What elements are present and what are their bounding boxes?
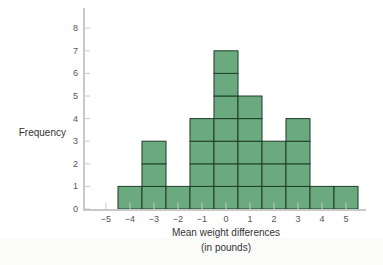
bar-unit-box [142, 164, 166, 187]
x-tick-label: −1 [197, 214, 207, 224]
y-tick-label: 3 [73, 136, 78, 146]
bar-unit-box [190, 141, 214, 164]
y-tick-label: 6 [73, 68, 78, 78]
bar [262, 141, 286, 209]
x-tick-label: −3 [149, 214, 159, 224]
bar-unit-box [262, 164, 286, 187]
x-tick-label: −5 [101, 214, 111, 224]
bar-unit-box [214, 164, 238, 187]
x-tick-label: 0 [223, 214, 228, 224]
histogram-chart: 012345678 −5−4−3−2−1012345 Frequency Mea… [0, 0, 383, 238]
y-axis-title: Frequency [19, 127, 66, 138]
x-tick-label: 1 [247, 214, 252, 224]
x-tick-label: 2 [271, 214, 276, 224]
x-axis-title-line1: Mean weight differences [172, 227, 280, 238]
bar-unit-box [238, 164, 262, 187]
bar-unit-box [238, 96, 262, 119]
bar-unit-box [190, 119, 214, 142]
bar [238, 96, 262, 209]
x-tick-label: −4 [125, 214, 135, 224]
bar-unit-box [238, 119, 262, 142]
bar-unit-box [214, 73, 238, 96]
bar [286, 119, 310, 209]
bar-unit-box [214, 141, 238, 164]
bar-unit-box [286, 164, 310, 187]
bar-unit-box [214, 119, 238, 142]
bar [142, 141, 166, 209]
bar-unit-box [286, 141, 310, 164]
bar-unit-box [238, 141, 262, 164]
y-tick-label: 8 [73, 23, 78, 33]
y-tick-label: 1 [73, 181, 78, 191]
y-tick-label: 0 [73, 204, 78, 214]
bar-unit-box [286, 119, 310, 142]
x-axis-title-line2: (in pounds) [201, 242, 251, 253]
bar [214, 51, 238, 209]
bar-unit-box [214, 96, 238, 119]
x-axis-title-area: (in pounds) [0, 238, 383, 265]
bar [190, 119, 214, 209]
x-tick-label: −2 [173, 214, 183, 224]
y-tick-label: 7 [73, 46, 78, 56]
bar-unit-box [214, 51, 238, 74]
bars-group [118, 51, 358, 209]
y-tick-label: 2 [73, 159, 78, 169]
bar-unit-box [190, 164, 214, 187]
x-tick-label: 4 [319, 214, 324, 224]
x-tick-label: 3 [295, 214, 300, 224]
x-tick-label: 5 [343, 214, 348, 224]
bar-unit-box [262, 141, 286, 164]
y-tick-label: 5 [73, 91, 78, 101]
y-tick-label: 4 [73, 114, 78, 124]
y-ticks: 012345678 [73, 23, 90, 214]
bar-unit-box [142, 141, 166, 164]
